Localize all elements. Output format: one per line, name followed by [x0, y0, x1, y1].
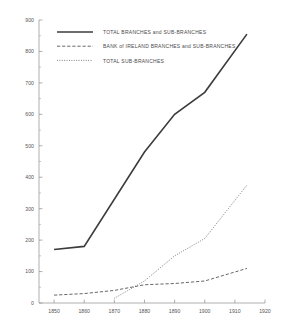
line-chart-canvas: 0100200300400500600700800900 18501860187…	[0, 0, 287, 329]
series-line-1	[54, 34, 247, 249]
x-axis-tick-labels: 18501860187018801890190019101920	[48, 308, 271, 314]
y-tick-label: 300	[25, 206, 34, 212]
x-tick-label: 1890	[169, 308, 181, 314]
legend-label-1: TOTAL BRANCHES and SUB-BRANCHES	[103, 29, 207, 35]
data-series-group	[54, 34, 247, 298]
series-line-2	[54, 268, 247, 295]
y-tick-label: 500	[25, 143, 34, 149]
x-tick-label: 1850	[48, 308, 60, 314]
y-axis-tick-labels: 0100200300400500600700800900	[25, 17, 34, 306]
y-tick-label: 0	[31, 300, 34, 306]
x-tick-label: 1900	[199, 308, 211, 314]
y-tick-label: 200	[25, 237, 34, 243]
x-tick-label: 1880	[139, 308, 151, 314]
y-tick-label: 600	[25, 111, 34, 117]
y-tick-label: 700	[25, 80, 34, 86]
x-tick-label: 1910	[229, 308, 241, 314]
x-axis: 18501860187018801890190019101920	[39, 300, 271, 314]
y-tick-label: 800	[25, 48, 34, 54]
y-tick-label: 100	[25, 268, 34, 274]
x-axis-ticks	[54, 300, 265, 303]
legend-label-3: TOTAL SUB-BRANCHES	[103, 58, 164, 64]
series-line-3	[114, 185, 247, 298]
legend-label-2: BANK of IRELAND BRANCHES and SUB-BRANCHE…	[103, 43, 236, 49]
x-tick-label: 1870	[109, 308, 121, 314]
x-tick-label: 1860	[78, 308, 90, 314]
y-tick-label: 900	[25, 17, 34, 23]
chart-figure: 0100200300400500600700800900 18501860187…	[0, 0, 287, 329]
y-tick-label: 400	[25, 174, 34, 180]
y-axis: 0100200300400500600700800900	[25, 17, 42, 306]
chart-legend: TOTAL BRANCHES and SUB-BRANCHESBANK of I…	[57, 29, 236, 63]
x-tick-label: 1920	[259, 308, 271, 314]
